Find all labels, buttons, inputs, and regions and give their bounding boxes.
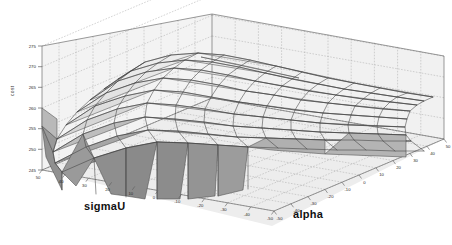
- x-tick-label: -40: [244, 212, 251, 217]
- y-tick-label: -10: [344, 187, 351, 192]
- z-tick-label: 255: [29, 126, 37, 131]
- x-tick-label: 20: [105, 187, 110, 192]
- x-tick-label: -50: [267, 216, 274, 221]
- plot-canvas: 275 270 265 260 255 250 245: [0, 0, 452, 245]
- z-tick-label: 275: [29, 44, 37, 49]
- y-tick-label: 0: [363, 180, 366, 185]
- y-tick-label: 40: [430, 151, 435, 156]
- y-tick-label: -20: [327, 194, 334, 199]
- y-tick-label: -50: [276, 216, 283, 221]
- z-tick-label: 260: [29, 106, 37, 111]
- z-tick-label: 245: [29, 168, 37, 173]
- y-tick-label: 20: [396, 165, 401, 170]
- y-tick-label: -30: [310, 201, 317, 206]
- x-tick-label: 40: [59, 179, 64, 184]
- z-tick-label: 265: [29, 85, 37, 90]
- x-tick-label: 10: [128, 191, 133, 196]
- y-tick-label: 30: [413, 158, 418, 163]
- y-axis-title: alpha: [293, 208, 323, 220]
- z-tick-label: 250: [29, 147, 37, 152]
- surface-plot-figure: 275 270 265 260 255 250 245: [0, 0, 452, 245]
- x-tick-label: -20: [197, 203, 204, 208]
- x-tick-label: 50: [36, 175, 41, 180]
- z-axis: 275 270 265 260 255 250 245: [29, 44, 42, 173]
- y-tick-label: 50: [446, 144, 451, 149]
- x-tick-label: 30: [82, 183, 87, 188]
- x-tick-label: -30: [221, 207, 228, 212]
- z-axis-title: cost: [9, 86, 15, 96]
- y-tick-label: 10: [379, 172, 384, 177]
- x-axis-title: sigmaU: [84, 200, 126, 212]
- x-tick-label: -10: [174, 199, 181, 204]
- z-tick-label: 270: [29, 64, 37, 69]
